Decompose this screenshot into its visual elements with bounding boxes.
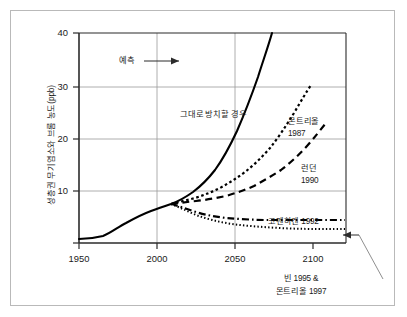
chart-figure: 성층권 무기염소와 브롬 농도(ppb) 40 30 20 10 1950 20… [0, 0, 407, 317]
figure-border: 성층권 무기염소와 브롬 농도(ppb) 40 30 20 10 1950 20… [10, 10, 395, 306]
y-tick-label-10: 10 [44, 185, 68, 196]
annotation-vienna-montreal-line1: 빈 1995 & [241, 273, 361, 285]
annotation-no-action: 그대로 방치할 경우 [180, 109, 247, 121]
x-tick-marks [79, 243, 313, 249]
y-tick-label-30: 30 [44, 81, 68, 92]
series-no-action [79, 33, 272, 239]
annotation-london-1990-line1: 런던 [301, 163, 317, 175]
y-tick-label-20: 20 [44, 133, 68, 144]
annotation-forecast: 예측 [119, 55, 135, 67]
annotation-london-1990-line2: 1990 [301, 175, 318, 187]
forecast-arrow [144, 58, 179, 65]
y-tick-label-40: 40 [44, 27, 68, 38]
x-tick-label-1950: 1950 [59, 253, 99, 264]
annotation-copenhagen-1992: 코펜하겐 1992 [268, 216, 319, 228]
x-tick-label-2000: 2000 [137, 253, 177, 264]
bottom-leader-line [343, 232, 383, 279]
annotation-montreal-1987-line1: 몬트리올 [288, 116, 319, 128]
y-tick-marks [73, 33, 79, 243]
annotation-montreal-1987-line2: 1987 [288, 128, 305, 140]
x-tick-label-2100: 2100 [293, 253, 333, 264]
x-tick-label-2050: 2050 [215, 253, 255, 264]
series-montreal-1987 [171, 85, 311, 204]
annotation-vienna-montreal-line2: 몬트리올 1997 [241, 286, 361, 298]
